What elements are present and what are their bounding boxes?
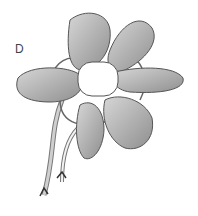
petal-bottom [77, 103, 104, 159]
petal-top-right [108, 21, 154, 71]
petal-bottom-right [104, 97, 153, 149]
petal-left [17, 68, 83, 102]
wire-stems [40, 100, 78, 196]
petal-top [68, 13, 110, 70]
flower-illustration [0, 0, 198, 216]
petal-right [113, 68, 183, 92]
flower-center [78, 62, 118, 96]
